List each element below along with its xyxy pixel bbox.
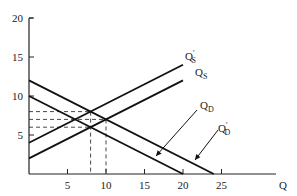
labels: Q'SQSQDQ'D xyxy=(156,49,230,160)
x-tick-label: 25 xyxy=(216,179,228,191)
curve-label: Q'S xyxy=(185,49,196,65)
x-axis-label: Q xyxy=(279,179,287,191)
axes: 5101520255101520Q xyxy=(12,12,287,191)
curve-qprime--d xyxy=(29,80,214,174)
y-tick-label: 10 xyxy=(12,90,24,102)
y-tick-label: 20 xyxy=(12,12,24,24)
supply-demand-chart: 5101520255101520Q Q'SQSQDQ'D xyxy=(0,0,297,196)
y-tick-label: 5 xyxy=(18,129,24,141)
curve-label: QD xyxy=(200,99,214,114)
curve-label: QS xyxy=(195,66,207,81)
y-tick-label: 15 xyxy=(12,51,24,63)
x-tick-label: 10 xyxy=(101,179,113,191)
x-tick-label: 15 xyxy=(139,179,151,191)
arrow-line xyxy=(195,130,218,160)
arrowhead-icon xyxy=(195,154,200,160)
arrow-line xyxy=(156,110,197,156)
x-tick-label: 20 xyxy=(178,179,190,191)
curves xyxy=(29,65,214,174)
curve-qprime--s xyxy=(29,65,183,143)
dashed-guides xyxy=(29,112,106,174)
x-tick-label: 5 xyxy=(65,179,71,191)
curve-label: Q'D xyxy=(218,121,230,137)
